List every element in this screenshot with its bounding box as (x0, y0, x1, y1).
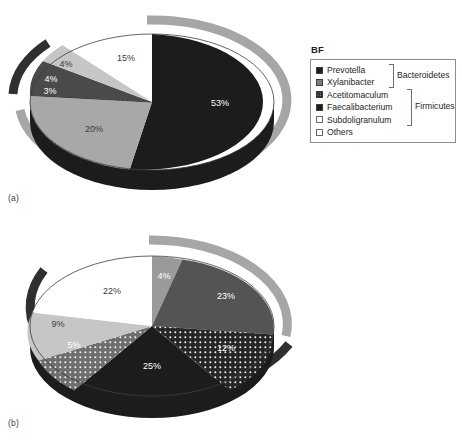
pie-value-acetitomaculum-a: 3% (43, 86, 56, 96)
figure-panel-a: 53% 20% 3% 4% 4% 15% (a) BF Prevotella X… (0, 0, 462, 215)
legend-label-others: Others (327, 126, 353, 138)
figure-panel-b: 4% 23% 12% 25% 5% 9% 22% (b) EU Alistipe… (0, 222, 462, 437)
pie-value-subdoligranulum-a: 4% (59, 59, 72, 69)
pie-value-xylanibacter-a: 20% (85, 124, 103, 134)
legend-bf: BF Prevotella Xylanibacter Acetitomaculu… (310, 44, 456, 143)
pie-value-prevotella-a: 53% (211, 98, 229, 108)
pie-value-roseburia-b: 5% (67, 340, 80, 350)
legend-swatch-prevotella-icon (316, 67, 323, 74)
panel-caption-a: (a) (8, 193, 19, 203)
legend-label-subdoligranulum: Subdoligranulum (327, 114, 392, 126)
legend-item-others[interactable]: Others (316, 126, 451, 138)
legend-swatch-subdoligranulum-icon (316, 116, 323, 123)
bracket-firmicutes-a (407, 89, 412, 126)
legend-label-xylanibacter: Xylanibacter (327, 76, 374, 88)
pie-value-alistipes-b: 4% (157, 271, 170, 281)
legend-swatch-others-icon (316, 129, 323, 136)
pie-chart-eu-svg: 4% 23% 12% 25% 5% 9% 22% (4, 226, 300, 422)
pie-value-bacteroides-b: 23% (217, 291, 235, 301)
legend-swatch-xylanibacter-icon (316, 79, 323, 86)
pie-value-others-a: 15% (117, 53, 135, 63)
legend-title-bf: BF (311, 44, 456, 55)
pie-chart-bf-svg: 53% 20% 3% 4% 4% 15% (4, 4, 300, 190)
panel-caption-b: (b) (8, 418, 19, 428)
pie-value-others-b: 22% (103, 286, 121, 296)
pie-value-acetitomaculum-b: 12% (217, 343, 235, 353)
pie-value-faecalibacterium-a: 4% (44, 74, 57, 84)
pie-value-subdoligranulum-b: 9% (51, 319, 64, 329)
pie-value-faecalibacterium-b: 25% (143, 361, 161, 371)
pie-chart-bf: 53% 20% 3% 4% 4% 15% (4, 4, 300, 190)
legend-label-faecalibacterium: Faecalibacterium (327, 101, 392, 113)
legend-label-prevotella: Prevotella (327, 64, 365, 76)
group-label-bacteroidetes-a: Bacteroidetes (397, 70, 450, 80)
legend-label-acetitomaculum: Acetitomaculum (327, 89, 388, 101)
legend-swatch-acetitomaculum-icon (316, 91, 323, 98)
legend-box-bf: Prevotella Xylanibacter Acetitomaculum F… (310, 59, 456, 143)
group-label-firmicutes-a: Firmicutes (415, 101, 455, 111)
legend-item-subdoligranulum[interactable]: Subdoligranulum (316, 114, 451, 126)
pie-chart-eu: 4% 23% 12% 25% 5% 9% 22% (4, 226, 300, 412)
bracket-bacteroidetes-a (389, 64, 394, 88)
legend-item-acetitomaculum[interactable]: Acetitomaculum (316, 89, 451, 101)
legend-swatch-faecalibacterium-icon (316, 104, 323, 111)
